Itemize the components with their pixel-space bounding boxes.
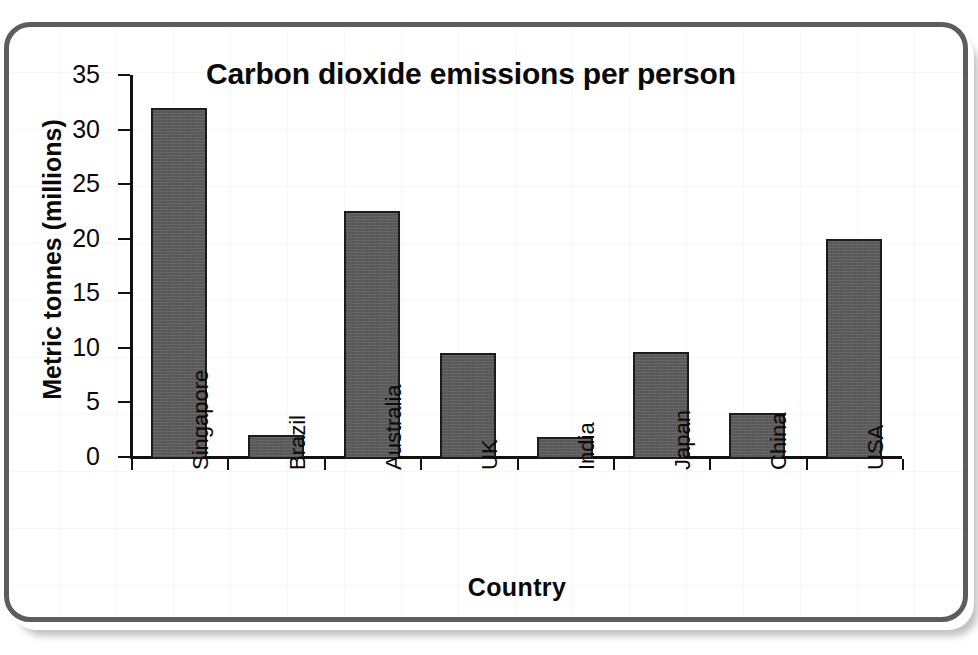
x-axis-category-label: Singapore xyxy=(188,370,214,470)
y-axis-tick xyxy=(118,74,130,76)
y-axis-tick-label-text: 30 xyxy=(60,117,100,142)
y-axis-tick-label: 10 xyxy=(60,335,112,360)
y-axis-tick xyxy=(118,238,130,240)
x-axis-category-label: Australia xyxy=(381,384,407,470)
x-axis-tick xyxy=(131,459,133,470)
y-axis-tick xyxy=(118,456,130,458)
x-axis-tick xyxy=(324,459,326,470)
y-axis-tick-label-text: 25 xyxy=(60,171,100,196)
bar-chart: Carbon dioxide emissions per person Metr… xyxy=(0,0,978,655)
y-axis-title: Metric tonnes (millions) xyxy=(38,95,67,425)
x-axis-category-label: Japan xyxy=(670,410,696,470)
y-axis-tick xyxy=(118,347,130,349)
x-axis-category-label: China xyxy=(766,413,792,470)
x-axis-category-label: USA xyxy=(863,425,889,470)
x-axis-tick xyxy=(227,459,229,470)
x-axis-tick xyxy=(902,459,904,470)
x-axis-tick xyxy=(806,459,808,470)
y-axis-tick-label: 0 xyxy=(60,444,112,469)
y-axis-tick-label: 5 xyxy=(60,389,112,414)
y-axis-tick xyxy=(118,183,130,185)
y-axis-tick-label: 15 xyxy=(60,280,112,305)
y-axis-tick-label-text: 5 xyxy=(60,389,100,414)
y-axis-tick-label-text: 15 xyxy=(60,280,100,305)
x-axis-category-label: Brazil xyxy=(285,415,311,470)
y-axis-tick-label: 30 xyxy=(60,117,112,142)
x-axis-tick xyxy=(517,459,519,470)
x-axis-title: Country xyxy=(131,573,903,602)
x-axis-category-label: UK xyxy=(477,439,503,470)
y-axis-tick-label: 35 xyxy=(60,62,112,87)
y-axis-tick-label-text: 0 xyxy=(60,444,100,469)
x-axis-tick xyxy=(709,459,711,470)
y-axis-tick xyxy=(118,129,130,131)
y-axis-tick-label-text: 20 xyxy=(60,226,100,251)
y-axis-tick xyxy=(118,292,130,294)
x-axis-tick xyxy=(420,459,422,470)
y-axis-tick-label-text: 35 xyxy=(60,62,100,87)
y-axis-tick xyxy=(118,401,130,403)
y-axis-tick-label: 25 xyxy=(60,171,112,196)
y-axis-line xyxy=(130,75,133,459)
y-axis-tick-label-text: 10 xyxy=(60,335,100,360)
y-axis-tick-label: 20 xyxy=(60,226,112,251)
chart-title: Carbon dioxide emissions per person xyxy=(206,57,736,91)
x-axis-category-label: India xyxy=(574,422,600,470)
x-axis-tick xyxy=(613,459,615,470)
